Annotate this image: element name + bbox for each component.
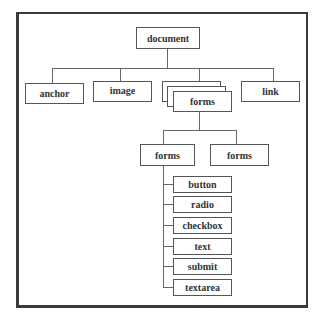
node-image: image — [93, 81, 152, 102]
node-anchor: anchor — [25, 83, 84, 104]
node-radio: radio — [173, 196, 232, 213]
node-textarea: textarea — [173, 279, 232, 296]
node-button: button — [173, 176, 232, 193]
node-document: document — [136, 27, 200, 49]
node-forms-a: forms — [140, 144, 195, 166]
node-forms: forms — [173, 91, 232, 112]
node-submit: submit — [173, 258, 232, 275]
node-forms-b: forms — [210, 144, 269, 166]
node-link: link — [241, 81, 300, 102]
node-checkbox: checkbox — [173, 217, 232, 234]
node-text: text — [173, 238, 232, 255]
